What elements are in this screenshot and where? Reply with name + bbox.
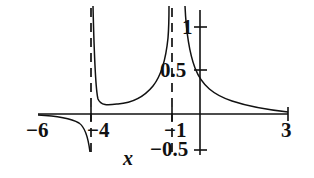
y-tick-label-1: 1 <box>182 17 193 38</box>
curve-branch-middle <box>93 6 169 105</box>
x-tick-label-3: 3 <box>281 120 292 141</box>
function-graph-figure: −6 −4 −1 3 1 0.5 −0.5 x <box>0 0 314 178</box>
x-tick-label-minus-4: −4 <box>87 120 109 141</box>
y-tick-label-minus-0-5: −0.5 <box>150 139 188 160</box>
x-tick-label-minus-6: −6 <box>26 120 48 141</box>
y-tick-label-0-5: 0.5 <box>160 60 186 81</box>
x-axis-label: x <box>123 148 133 168</box>
